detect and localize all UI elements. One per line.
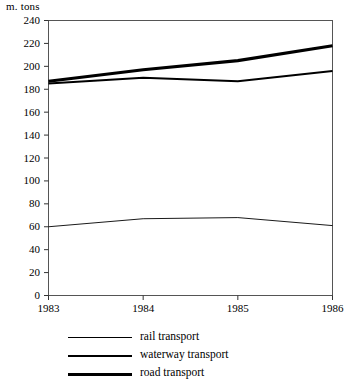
x-tick-label: 1983 bbox=[27, 303, 71, 314]
y-tick-label: 140 bbox=[10, 130, 40, 141]
y-tick-label: 40 bbox=[10, 244, 40, 255]
legend-item-label: rail transport bbox=[140, 330, 199, 342]
legend-line-swatch bbox=[68, 355, 132, 357]
chart-container: m. tons 02040608010012014016018020022024… bbox=[0, 0, 351, 384]
y-tick-label: 100 bbox=[10, 175, 40, 186]
y-axis-tick-marks bbox=[44, 21, 49, 296]
y-tick-label: 20 bbox=[10, 267, 40, 278]
x-tick-label: 1986 bbox=[311, 303, 351, 314]
x-axis-tick-marks bbox=[49, 296, 333, 301]
y-tick-label: 180 bbox=[10, 84, 40, 95]
y-tick-label: 160 bbox=[10, 107, 40, 118]
y-tick-label: 200 bbox=[10, 61, 40, 72]
y-tick-label: 120 bbox=[10, 153, 40, 164]
x-tick-label: 1985 bbox=[216, 303, 260, 314]
legend-item: rail transport bbox=[0, 329, 351, 347]
legend-item-label: road transport bbox=[140, 366, 204, 378]
y-tick-label: 220 bbox=[10, 38, 40, 49]
y-tick-label: 240 bbox=[10, 15, 40, 26]
x-tick-label: 1984 bbox=[121, 303, 165, 314]
legend-line-swatch bbox=[68, 373, 132, 376]
data-series-lines bbox=[49, 46, 333, 227]
legend-item-label: waterway transport bbox=[140, 348, 228, 360]
y-tick-label: 80 bbox=[10, 198, 40, 209]
legend-line-swatch bbox=[68, 337, 132, 338]
plot-frame bbox=[49, 21, 333, 296]
y-tick-label: 0 bbox=[10, 290, 40, 301]
y-tick-label: 60 bbox=[10, 221, 40, 232]
legend-item: road transport bbox=[0, 365, 351, 383]
chart-legend: rail transportwaterway transportroad tra… bbox=[0, 329, 351, 383]
legend-item: waterway transport bbox=[0, 347, 351, 365]
plot-area bbox=[0, 0, 351, 330]
